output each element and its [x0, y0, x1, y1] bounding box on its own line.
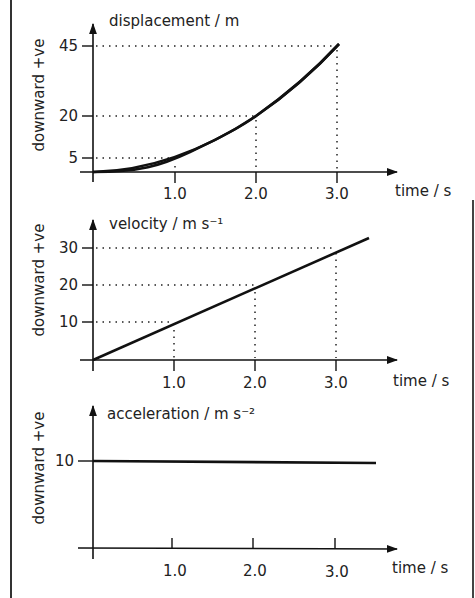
- y-tick-label: 10: [55, 452, 74, 470]
- x-tick-label: 3.0: [325, 185, 349, 203]
- chart-title: displacement / m: [109, 12, 239, 30]
- acceleration-chart: downward +ve acceleration / m s⁻² 10 1.0…: [30, 405, 448, 581]
- guide-lines: [96, 46, 337, 170]
- acceleration-line: [93, 461, 376, 463]
- x-axis: [78, 548, 397, 549]
- x-tick-label: 1.0: [162, 374, 186, 392]
- y-tick-label: 30: [59, 239, 78, 257]
- x-tick-label: 3.0: [325, 563, 349, 581]
- y-tick-label: 20: [59, 276, 78, 294]
- y-side-label: downward +ve: [30, 224, 48, 337]
- y-tick-label: 45: [59, 37, 78, 55]
- x-tick-label: 1.0: [163, 185, 187, 203]
- y-tick-label: 20: [59, 107, 78, 125]
- chart-title: velocity / m s⁻¹: [109, 215, 223, 233]
- y-tick-label: 10: [59, 313, 78, 331]
- x-axis-label: time / s: [393, 372, 449, 390]
- x-axis-label: time / s: [392, 559, 448, 577]
- x-tick-label: 3.0: [324, 374, 348, 392]
- motion-graphs-figure: downward +ve displacement / m 45 20 5 1.…: [0, 0, 475, 598]
- x-tick-label: 1.0: [163, 562, 187, 580]
- x-axis-label: time / s: [395, 182, 451, 200]
- velocity-line: [93, 238, 369, 360]
- velocity-chart: downward +ve velocity / m s⁻¹ 30 20 10 1…: [30, 215, 449, 392]
- x-tick-label: 2.0: [244, 185, 268, 203]
- displacement-curve: [93, 44, 339, 172]
- x-tick-label: 2.0: [243, 374, 267, 392]
- y-side-label: downward +ve: [30, 39, 48, 152]
- chart-title: acceleration / m s⁻²: [107, 405, 255, 423]
- displacement-chart: downward +ve displacement / m 45 20 5 1.…: [30, 12, 451, 203]
- y-tick-label: 5: [68, 149, 78, 167]
- y-side-label: downward +ve: [30, 412, 48, 525]
- x-tick-label: 2.0: [243, 562, 267, 580]
